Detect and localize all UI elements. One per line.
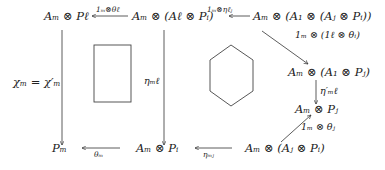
label-left-vertical: χₘ = χ′ₘ (13, 76, 61, 88)
node-top-left: Aₘ ⊗ Pℓ (44, 10, 89, 22)
label-top-right-to-mid: 1ₘ⊗ηℓⱼ (207, 6, 232, 14)
node-top-right: Aₘ ⊗ (A₁ ⊗ (Aⱼ ⊗ Pᵢ)) (253, 10, 371, 22)
label-right-vertical: η′ₘℓ (320, 86, 338, 96)
label-diag-bottom: 1ₘ ⊗ θⱼ (301, 122, 335, 132)
label-diag-top: 1ₘ ⊗ (1ℓ ⊗ θᵢ) (295, 30, 360, 40)
node-right-mid: Aₘ ⊗ Pⱼ (295, 103, 338, 115)
node-bottom-right: Aₘ ⊗ (Aⱼ ⊗ Pᵢ) (245, 142, 325, 154)
hexagon-shape (210, 45, 253, 106)
node-right-upper: Aₘ ⊗ (A₁ ⊗ Pⱼ) (288, 66, 370, 78)
label-top-mid-to-left: 1ₘ⊗θℓ (96, 6, 119, 14)
node-bottom-mid: Aₘ ⊗ Pᵢ (136, 142, 178, 154)
node-bottom-left: Pₘ (52, 142, 67, 154)
rectangle-shape (94, 45, 131, 102)
label-bottom-right-to-mid: ηₘⱼ (203, 151, 214, 159)
label-bottom-mid-to-left: θₘ (94, 151, 103, 159)
label-mid-vertical: ηₘℓ (144, 76, 159, 86)
node-top-mid: Aₘ ⊗ (Aℓ ⊗ Pᵢ) (132, 10, 213, 22)
